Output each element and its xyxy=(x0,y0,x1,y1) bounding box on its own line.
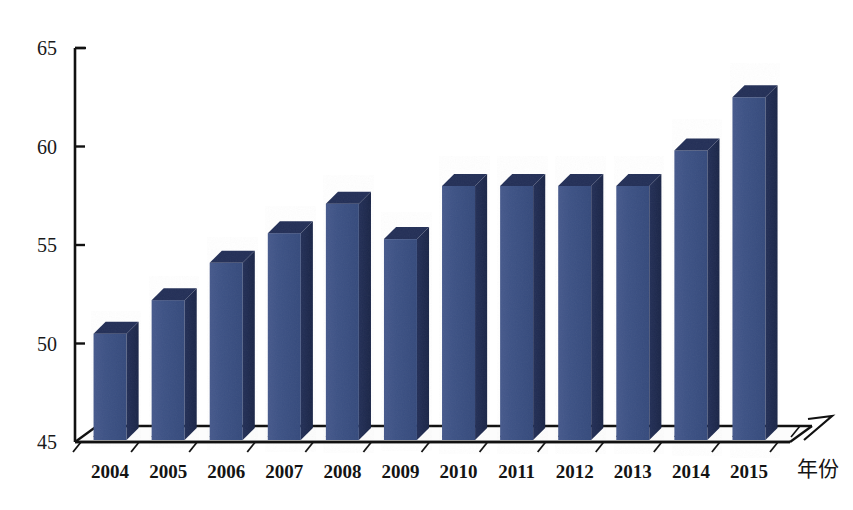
x-category-label: 2014 xyxy=(672,461,711,482)
bar-front-face xyxy=(268,233,301,440)
bar-side-face xyxy=(417,227,429,440)
y-tick-label: 45 xyxy=(37,431,57,453)
x-category-label: 2012 xyxy=(556,461,594,482)
x-axis-title: 年份 xyxy=(797,457,839,481)
x-category-label: 2015 xyxy=(730,461,768,482)
bar-2010 xyxy=(442,170,487,440)
bar-2005 xyxy=(152,284,197,440)
x-category-label: 2013 xyxy=(614,461,652,482)
bar-side-face xyxy=(475,174,487,440)
chart-container: 4550556065 20042005200620072008200920102… xyxy=(0,0,853,510)
bar-2008 xyxy=(326,188,371,440)
y-tick-label: 65 xyxy=(37,37,57,59)
x-category-label: 2007 xyxy=(265,461,304,482)
bar-front-face xyxy=(326,204,359,440)
bar-front-face xyxy=(558,186,591,440)
bar-front-face xyxy=(384,239,417,440)
bar-front-face xyxy=(442,186,475,440)
bar-front-face xyxy=(210,263,243,440)
bar-side-face xyxy=(707,138,719,440)
x-category-label: 2005 xyxy=(149,461,187,482)
bar-2015 xyxy=(732,81,777,440)
bar-front-face xyxy=(732,97,765,440)
x-category-label: 2009 xyxy=(381,461,419,482)
bar-2013 xyxy=(616,170,661,440)
bar-2007 xyxy=(268,217,313,440)
x-category-label: 2006 xyxy=(207,461,245,482)
bar-chart-3d: 4550556065 20042005200620072008200920102… xyxy=(0,0,853,510)
bar-2006 xyxy=(210,247,255,440)
bar-side-face xyxy=(185,288,197,440)
y-tick-label: 60 xyxy=(37,136,57,158)
bar-side-face xyxy=(533,174,545,440)
bar-2011 xyxy=(500,170,545,440)
y-tick-label: 55 xyxy=(37,234,57,256)
x-category-label: 2004 xyxy=(91,461,130,482)
bar-side-face xyxy=(765,85,777,440)
x-axis-title-group: 年份 xyxy=(797,457,839,481)
bar-side-face xyxy=(301,221,313,440)
bar-2012 xyxy=(558,170,603,440)
bar-2014 xyxy=(674,134,719,440)
bar-side-face xyxy=(649,174,661,440)
bar-side-face xyxy=(359,192,371,440)
bar-front-face xyxy=(500,186,533,440)
x-category-label: 2008 xyxy=(323,461,361,482)
x-category-label: 2010 xyxy=(440,461,478,482)
x-category-label: 2011 xyxy=(498,461,535,482)
bar-side-face xyxy=(127,322,139,440)
y-tick-label: 50 xyxy=(37,333,57,355)
bar-front-face xyxy=(674,150,707,440)
bar-2004 xyxy=(94,318,139,440)
bar-side-face xyxy=(591,174,603,440)
bar-2009 xyxy=(384,223,429,440)
bar-side-face xyxy=(243,251,255,440)
bar-front-face xyxy=(152,300,185,440)
bar-front-face xyxy=(616,186,649,440)
bar-front-face xyxy=(94,334,127,440)
